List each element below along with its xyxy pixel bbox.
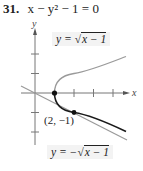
x-axis-label: x [131,87,137,98]
point-label: (2, −1) [44,114,74,126]
y-axis-arrow-icon [33,28,37,35]
vertex-point [52,90,57,95]
upper-curve-label: y = √x − 1 [52,32,110,46]
x-axis-arrow-icon [123,91,130,95]
upper-curve [55,57,127,94]
lower-curve-label: y = −√x − 1 [47,145,113,159]
y-axis-label: y [31,18,37,29]
